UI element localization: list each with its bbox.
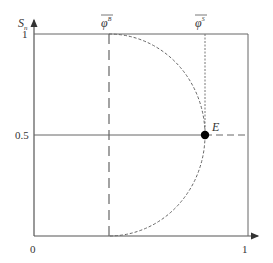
svg-text:φB: φB — [101, 16, 112, 30]
y-tick-0-5: 0.5 — [15, 129, 29, 141]
y-tick-1: 1 — [22, 28, 28, 40]
point-e-label: E — [211, 120, 220, 134]
equilibrium-point — [201, 131, 209, 139]
x-tick-1: 1 — [242, 243, 248, 255]
svg-text:φS: φS — [195, 16, 205, 30]
diagram-canvas: Sn 1 0.5 0 1 φB φS E — [0, 0, 273, 263]
x-tick-0: 0 — [30, 243, 36, 255]
phi-b-label: φB — [101, 15, 113, 30]
phi-s-label: φS — [195, 15, 207, 30]
